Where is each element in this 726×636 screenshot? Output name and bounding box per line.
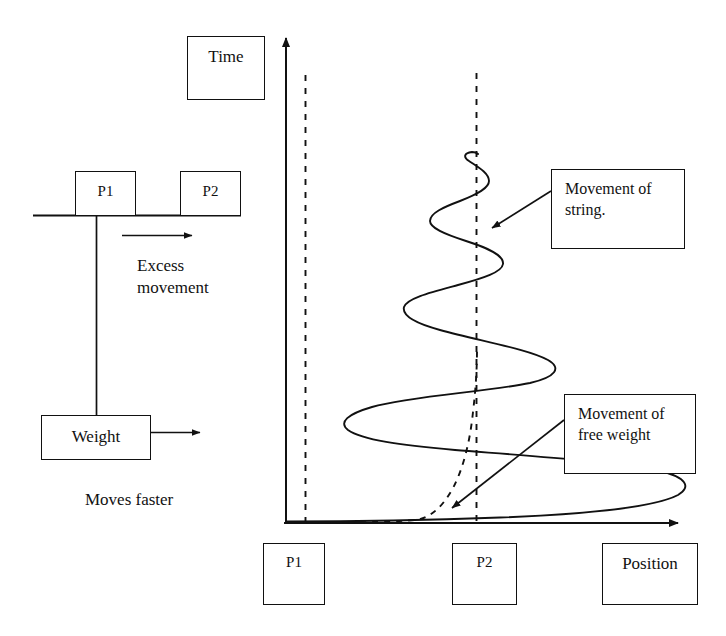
callout-arrow-string <box>492 191 551 228</box>
y-axis-label-box-time: Time <box>187 36 265 100</box>
x-axis-label-box-position: Position <box>602 543 698 605</box>
callout-arrows-group <box>452 191 564 508</box>
diagram-vector-layer <box>0 0 726 636</box>
curve-movement-of-free-weight <box>288 350 477 523</box>
schematic-group <box>33 215 241 433</box>
x-axis-tick-box-p1: P1 <box>263 543 325 605</box>
x-axis-tick-box-p2: P2 <box>452 543 517 605</box>
callout-arrow-free-weight <box>452 420 564 508</box>
diagram-canvas: P1 P2 Weight Excess movement Moves faste… <box>0 0 726 636</box>
excess-movement-label: Excess movement <box>137 255 209 299</box>
annotation-box-movement-of-string: Movement of string. <box>551 169 685 249</box>
schematic-block-weight: Weight <box>41 415 151 460</box>
moves-faster-label: Moves faster <box>85 489 173 511</box>
schematic-block-p2: P2 <box>180 171 241 216</box>
annotation-box-movement-of-free-weight: Movement of free weight <box>564 394 696 474</box>
schematic-block-p1: P1 <box>75 171 136 216</box>
